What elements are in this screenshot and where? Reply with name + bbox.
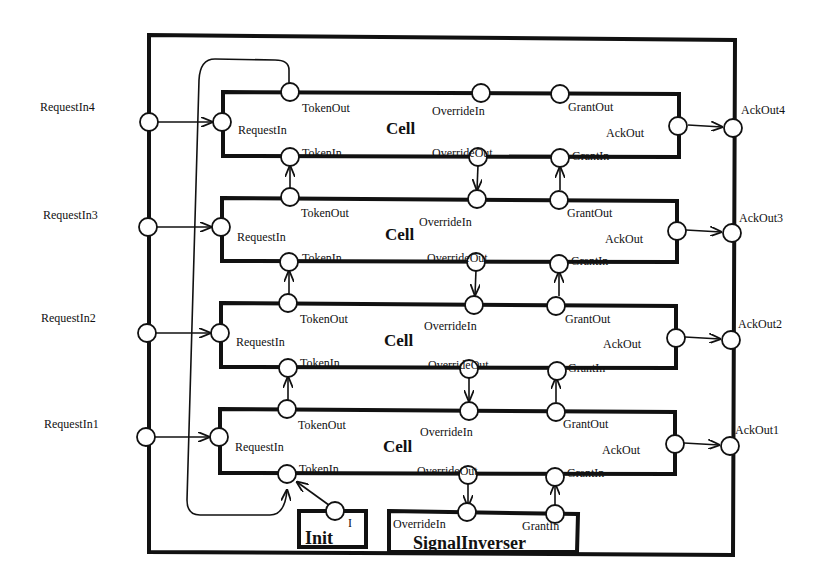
cell3-tokenout[interactable] xyxy=(281,188,299,206)
label-requestin4: RequestIn4 xyxy=(40,100,95,114)
cell1-requestin[interactable] xyxy=(210,428,228,446)
cell4-grantout[interactable] xyxy=(551,85,569,103)
cell3-grantin[interactable] xyxy=(550,255,568,273)
init-token-wire xyxy=(297,482,333,508)
cell3-label-grantin: GrantIn xyxy=(571,254,608,268)
port-requestin4[interactable] xyxy=(140,113,158,131)
cell1-label-ackout: AckOut xyxy=(602,443,641,457)
cell1-overridein[interactable] xyxy=(460,402,478,420)
port-ackout4[interactable] xyxy=(724,119,742,137)
inverser-label-overridein: OverrideIn xyxy=(393,517,446,531)
cell3-label-overrideout: OverrideOut xyxy=(427,251,488,265)
port-requestin2[interactable] xyxy=(138,324,156,342)
inverser-overridein[interactable] xyxy=(458,503,476,521)
cell1-tokenout[interactable] xyxy=(278,400,296,418)
init-superscript: I xyxy=(348,516,352,530)
cell2-tokenin[interactable] xyxy=(279,359,297,377)
cell3-label-overridein: OverrideIn xyxy=(419,215,472,229)
cell1-label-overrideout: OverrideOut xyxy=(417,464,478,478)
cell2-tokenout[interactable] xyxy=(279,294,297,312)
cell2-grantout[interactable] xyxy=(547,297,565,315)
cell1-tokenin[interactable] xyxy=(278,465,296,483)
cell4-label-grantout: GrantOut xyxy=(568,100,614,114)
init-title: Init xyxy=(305,528,333,548)
label-requestin1: RequestIn1 xyxy=(44,417,99,431)
cell2-ackout[interactable] xyxy=(667,329,685,347)
ack1-wire xyxy=(684,443,719,445)
cell1-label-overridein: OverrideIn xyxy=(420,425,473,439)
cell3-overridein[interactable] xyxy=(468,190,486,208)
cell3-label-ackout: AckOut xyxy=(605,232,644,246)
cell3-title: Cell xyxy=(385,225,415,244)
cell4-label-overridein: OverrideIn xyxy=(432,104,485,118)
cell4-tokenout[interactable] xyxy=(281,83,299,101)
cell3-label-tokenout: TokenOut xyxy=(301,206,349,220)
cell3-label-requestin: RequestIn xyxy=(237,230,286,244)
cell3-ackout[interactable] xyxy=(668,222,686,240)
cell4-label-overrideout: OverrideOut xyxy=(432,146,493,160)
cell4-label-requestin: RequestIn xyxy=(238,123,287,137)
cell4-label-tokenin: TokenIn xyxy=(302,146,342,160)
cell2-overridein[interactable] xyxy=(465,296,483,314)
cell1-label-requestin: RequestIn xyxy=(235,440,284,454)
cell1-label-grantin: GrantIn xyxy=(567,466,604,480)
cell1-grantin[interactable] xyxy=(546,468,564,486)
override-wire-3-2 xyxy=(475,270,476,295)
port-ackout3[interactable] xyxy=(723,224,741,242)
cell2-label-ackout: AckOut xyxy=(603,337,642,351)
arbiter-diagram: RequestIn4 RequestIn3 RequestIn2 Request… xyxy=(0,0,834,586)
cell3-tokenin[interactable] xyxy=(280,253,298,271)
cell1-label-tokenout: TokenOut xyxy=(298,418,346,432)
cell2-label-overrideout: OverrideOut xyxy=(428,358,489,372)
label-ackout1: AckOut1 xyxy=(735,423,779,437)
cell4-grantin[interactable] xyxy=(551,149,569,167)
cell1-label-tokenin: TokenIn xyxy=(299,462,339,476)
cell2-label-tokenin: TokenIn xyxy=(300,356,340,370)
cell2-label-grantout: GrantOut xyxy=(565,312,611,326)
cell2-title: Cell xyxy=(384,331,414,350)
cell1-title: Cell xyxy=(383,437,413,456)
cell2-requestin[interactable] xyxy=(211,324,229,342)
cell4-title: Cell xyxy=(386,119,416,138)
label-ackout4: AckOut4 xyxy=(741,103,785,117)
label-ackout3: AckOut3 xyxy=(739,211,783,225)
cell2-label-overridein: OverrideIn xyxy=(424,319,477,333)
cell4-ackout[interactable] xyxy=(669,117,687,135)
cell3-requestin[interactable] xyxy=(212,218,230,236)
label-requestin2: RequestIn2 xyxy=(41,311,96,325)
cell2-label-requestin: RequestIn xyxy=(236,335,285,349)
inverser-title: SignalInverser xyxy=(413,533,526,553)
cell4-label-ackout: AckOut xyxy=(606,126,645,140)
label-requestin3: RequestIn3 xyxy=(43,208,98,222)
override-wire-4-3 xyxy=(477,165,478,190)
ack3-wire xyxy=(686,230,721,232)
cell2-label-tokenout: TokenOut xyxy=(300,312,348,326)
cell4-label-tokenout: TokenOut xyxy=(302,101,350,115)
cell3-label-grantout: GrantOut xyxy=(567,206,613,220)
cell1-ackout[interactable] xyxy=(666,435,684,453)
cell4-requestin[interactable] xyxy=(213,113,231,131)
cell4-tokenin[interactable] xyxy=(281,148,299,166)
port-ackout2[interactable] xyxy=(722,331,740,349)
cell2-grantin[interactable] xyxy=(548,362,566,380)
cell4-overridein[interactable] xyxy=(472,84,490,102)
port-ackout1[interactable] xyxy=(721,437,739,455)
cell1-label-grantout: GrantOut xyxy=(563,417,609,431)
cell4-label-grantin: GrantIn xyxy=(572,149,609,163)
label-ackout2: AckOut2 xyxy=(738,317,782,331)
cell3-label-tokenin: TokenIn xyxy=(302,251,342,265)
inverser-label-grantin: GrantIn xyxy=(522,519,559,533)
cell2-label-grantin: GrantIn xyxy=(568,361,605,375)
port-requestin1[interactable] xyxy=(137,428,155,446)
ack4-wire xyxy=(688,125,722,127)
ack2-wire xyxy=(685,337,720,339)
cell3-grantout[interactable] xyxy=(550,191,568,209)
init-port[interactable] xyxy=(326,502,344,520)
port-requestin3[interactable] xyxy=(139,218,157,236)
